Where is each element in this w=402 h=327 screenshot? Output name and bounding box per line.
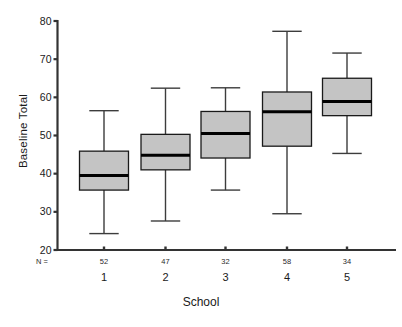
x-tick-label-school-4: 4 bbox=[267, 272, 307, 283]
box-plot-chart: Baseline Total School 80 70 60 50 40 30 … bbox=[0, 0, 402, 327]
y-tick-label-60: 60 bbox=[26, 92, 52, 103]
y-tick-label-40: 40 bbox=[26, 168, 52, 179]
n-count-label-school-3: 32 bbox=[206, 258, 246, 266]
y-tick-label-30: 30 bbox=[26, 206, 52, 217]
boxplot-school-5-box bbox=[323, 78, 372, 115]
n-count-label-school-4: 58 bbox=[267, 258, 307, 266]
x-tick-label-school-2: 2 bbox=[146, 272, 186, 283]
boxplot-school-1-box bbox=[80, 151, 129, 190]
n-prefix-label: N = bbox=[36, 258, 48, 266]
n-count-label-school-2: 47 bbox=[146, 258, 186, 266]
x-axis-title: School bbox=[0, 295, 402, 309]
y-tick-label-50: 50 bbox=[26, 130, 52, 141]
boxplot-school-2-box bbox=[141, 134, 190, 169]
x-tick-label-school-3: 3 bbox=[206, 272, 246, 283]
n-count-label-school-5: 34 bbox=[327, 258, 367, 266]
y-tick-label-80: 80 bbox=[26, 16, 52, 27]
n-count-label-school-1: 52 bbox=[84, 258, 124, 266]
y-tick-label-70: 70 bbox=[26, 54, 52, 65]
y-tick-label-20: 20 bbox=[26, 245, 52, 256]
x-tick-label-school-1: 1 bbox=[84, 272, 124, 283]
boxplot-school-4-box bbox=[263, 92, 312, 146]
x-tick-label-school-5: 5 bbox=[327, 272, 367, 283]
